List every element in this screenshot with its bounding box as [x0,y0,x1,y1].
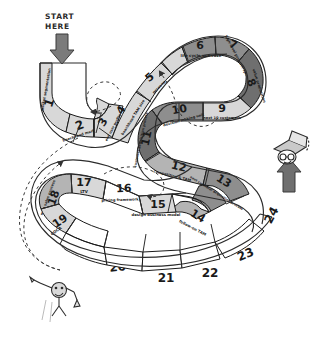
start-arrow [50,34,74,64]
step-number-17: 17 [76,176,91,189]
step-number-22: 22 [202,266,219,280]
person-celebrating-icon [30,277,80,322]
step-number-6: 6 [196,39,204,52]
step-tile-16[interactable]: 16 pricing framework [101,181,143,214]
start-here-label-line1: START [45,12,75,21]
step-number-21: 21 [158,271,175,285]
step-number-15: 15 [150,198,165,211]
step-number-10: 10 [171,102,189,118]
step-tile-17[interactable]: 17 LTV [71,174,106,199]
board-game-diagram: 1 market segmentation 2 beachhead market… [0,0,329,345]
person-with-cap-icon [274,131,309,164]
step-number-16: 16 [116,182,132,196]
step-number-9: 9 [218,102,226,115]
start-here-label-line2: HERE [45,22,70,31]
step-tile-1[interactable]: 1 market segmentation [40,63,70,132]
path-svg: 1 market segmentation 2 beachhead market… [0,0,329,345]
step-label-17: LTV [80,189,89,194]
